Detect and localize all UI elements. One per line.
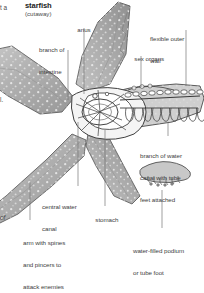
label-sex-organs: sex organs <box>131 48 164 63</box>
label-branch-of-water-canal-line3: feet attached <box>140 196 182 203</box>
label-arm-with-spines-line1: arm with spines <box>23 239 65 246</box>
label-branch-of-intestine-line2: intestine <box>39 68 64 75</box>
label-stomach-line1: stomach <box>95 216 118 223</box>
label-flexible-outer-wall: flexible outer wall <box>150 20 184 72</box>
label-water-filled-podium: water-filled podium or tube foot <box>133 232 184 284</box>
figure-subtitle-text: (cutaway) <box>25 10 51 17</box>
label-stomach: stomach <box>92 209 118 224</box>
label-water-filled-podium-line2: or tube foot <box>133 269 184 276</box>
label-arm-with-spines: arm with spines and pincers to attack en… <box>23 224 65 293</box>
label-branch-of-water-canal-line1: branch of water <box>140 152 182 159</box>
label-flexible-outer-wall-line1: flexible outer <box>150 35 184 42</box>
label-branch-of-intestine: branch of intestine <box>39 31 64 83</box>
label-arm-with-spines-line3: attack enemies <box>23 283 65 290</box>
label-anus-line1: anus <box>77 26 90 33</box>
label-branch-of-water-canal-line2: canal with tube <box>140 174 182 181</box>
figure-title-text: starfish <box>25 1 52 10</box>
cropped-text-bottom-left: of <box>0 214 5 221</box>
label-branch-of-water-canal: branch of water canal with tube feet att… <box>140 137 182 211</box>
cropped-text-mid-left: l. <box>0 96 3 103</box>
label-sex-organs-line1: sex organs <box>134 55 164 62</box>
arm-lower-middle <box>86 134 140 204</box>
label-central-water-canal-line1: central water <box>42 203 77 210</box>
cropped-text-top-left: t a <box>0 4 7 11</box>
label-anus: anus <box>74 19 91 34</box>
label-water-filled-podium-line1: water-filled podium <box>133 247 184 254</box>
label-branch-of-intestine-line1: branch of <box>39 46 64 53</box>
label-arm-with-spines-line2: and pincers to <box>23 261 65 268</box>
